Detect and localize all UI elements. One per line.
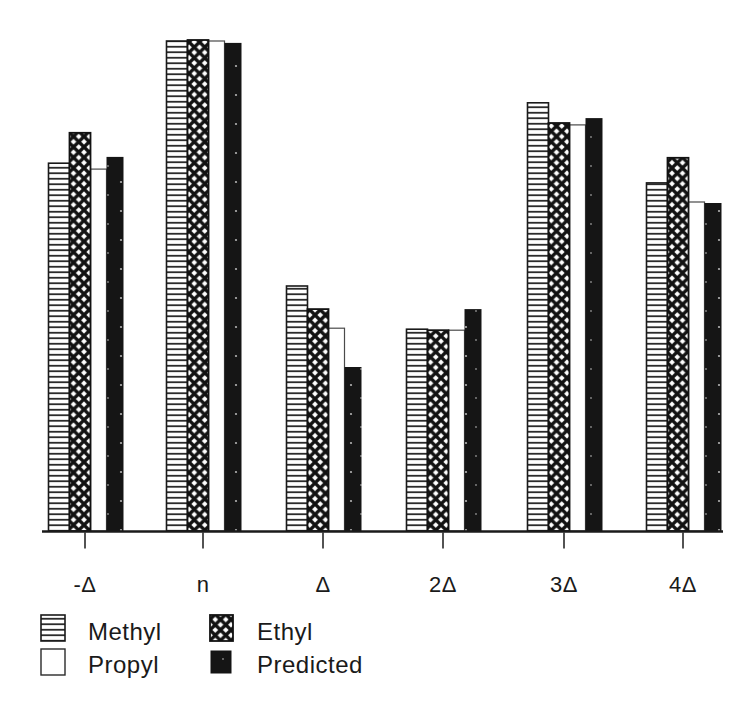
bar-predicted-group-4 xyxy=(586,118,603,531)
bar-ethyl-group-2 xyxy=(308,309,329,531)
bar-propyl-group-5 xyxy=(689,202,705,531)
legend-label-predicted: Predicted xyxy=(257,651,363,678)
bar-propyl-group-4 xyxy=(570,125,586,531)
bar-predicted-group-3 xyxy=(465,309,482,531)
bar-propyl-group-1 xyxy=(209,41,225,531)
grouped-bar-chart: -ΔnΔ2Δ3Δ4Δ MethylEthylPropylPredicted xyxy=(0,0,756,717)
x-tick-label-1: n xyxy=(197,572,210,597)
x-tick-label-3: 2Δ xyxy=(429,572,457,597)
bar-methyl-group-1 xyxy=(167,41,188,531)
x-tick-label-4: 3Δ xyxy=(550,572,578,597)
bars-layer xyxy=(49,40,722,531)
bar-predicted-group-0 xyxy=(107,157,124,531)
x-axis: -ΔnΔ2Δ3Δ4Δ xyxy=(42,532,723,598)
legend-swatch-methyl-horizontal-lines xyxy=(41,615,65,641)
legend-label-propyl: Propyl xyxy=(88,651,159,678)
bar-ethyl-group-3 xyxy=(428,330,449,531)
legend-label-ethyl: Ethyl xyxy=(257,618,313,645)
bar-methyl-group-5 xyxy=(647,183,668,531)
bar-propyl-group-0 xyxy=(91,169,107,531)
legend-swatch-propyl-white-empty xyxy=(41,649,65,675)
bar-ethyl-group-4 xyxy=(549,123,570,531)
legend: MethylEthylPropylPredicted xyxy=(41,615,363,678)
legend-swatch-ethyl-crosshatch-diamond xyxy=(210,615,233,641)
legend-swatch-predicted-solid-black xyxy=(211,651,231,673)
bar-predicted-group-1 xyxy=(225,43,242,531)
bar-propyl-group-2 xyxy=(329,328,345,531)
legend-label-methyl: Methyl xyxy=(88,618,162,645)
x-tick-label-0: -Δ xyxy=(73,572,96,597)
bar-ethyl-group-1 xyxy=(188,40,209,531)
bar-methyl-group-0 xyxy=(49,163,70,531)
x-tick-label-5: 4Δ xyxy=(669,572,697,597)
bar-propyl-group-3 xyxy=(449,330,465,531)
figure-canvas: -ΔnΔ2Δ3Δ4Δ MethylEthylPropylPredicted xyxy=(0,0,756,717)
bar-methyl-group-3 xyxy=(407,329,428,531)
bar-methyl-group-2 xyxy=(287,286,308,531)
x-tick-label-2: Δ xyxy=(315,572,330,597)
bar-ethyl-group-0 xyxy=(70,133,91,531)
bar-ethyl-group-5 xyxy=(668,158,689,531)
bar-predicted-group-2 xyxy=(345,367,362,531)
bar-predicted-group-5 xyxy=(705,203,722,531)
bar-methyl-group-4 xyxy=(528,103,549,531)
